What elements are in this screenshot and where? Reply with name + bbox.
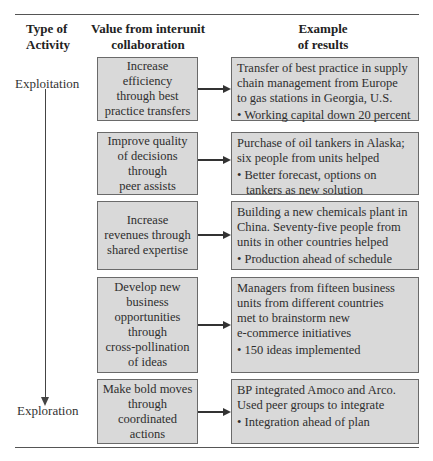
value-line: Increase	[127, 213, 169, 228]
bullet-line: • Production ahead of schedule	[237, 252, 413, 267]
header-value-line-2: collaboration	[86, 37, 210, 53]
header-type-line-2: Activity	[26, 37, 70, 53]
arrow-right-icon	[198, 407, 231, 416]
value-box-revenues: Increase revenues through shared experti…	[97, 201, 198, 270]
result-line: units from different countries	[237, 296, 413, 311]
value-line: through	[128, 397, 167, 412]
value-line: Improve quality	[107, 134, 187, 149]
value-line: efficiency	[123, 74, 173, 89]
value-line: practice transfers	[105, 104, 191, 119]
value-line: actions	[130, 427, 165, 442]
value-line: coordinated	[118, 412, 177, 427]
result-line: units in other countries helped	[237, 235, 413, 250]
header-example-line-1: Example	[263, 21, 383, 37]
result-line: Used peer groups to integrate	[237, 398, 413, 413]
value-line: Increase	[127, 59, 169, 74]
arrow-right-icon	[198, 230, 231, 239]
result-bullet: • Better forecast, options on tankers as…	[237, 168, 413, 198]
header-example-line-2: of results	[263, 37, 383, 53]
value-line: through	[128, 164, 167, 179]
value-line: Develop new	[114, 280, 180, 295]
result-line: BP integrated Amoco and Arco.	[237, 383, 413, 398]
value-box-efficiency: Increase efficiency through best practic…	[97, 57, 198, 121]
bullet-line: • Integration ahead of plan	[237, 415, 413, 430]
result-line: Managers from fifteen business	[237, 281, 413, 296]
activity-axis-line	[45, 89, 46, 399]
value-box-bold-moves: Make bold moves through coordinated acti…	[97, 379, 198, 444]
header-type-of-activity: Type of Activity	[26, 21, 70, 53]
result-box-opportunities: Managers from fifteen business units fro…	[231, 277, 419, 373]
result-box-decisions: Purchase of oil tankers in Alaska; six p…	[231, 132, 419, 195]
header-example: Example of results	[263, 21, 383, 53]
header-type-line-1: Type of	[26, 21, 70, 37]
result-bullet: • Production ahead of schedule	[237, 252, 413, 267]
bullet-line: • 150 ideas implemented	[237, 343, 413, 358]
header-value: Value from interunit collaboration	[86, 21, 210, 53]
result-line: China. Seventy-five people from	[237, 220, 413, 235]
value-line: opportunities	[115, 310, 181, 325]
result-line: met to brainstorm new	[237, 311, 413, 326]
header-value-line-1: Value from interunit	[86, 21, 210, 37]
top-rule	[15, 14, 419, 15]
result-line: Building a new chemicals plant in	[237, 205, 413, 220]
result-line: e-commerce initiatives	[237, 326, 413, 341]
bullet-line: • Working capital down 20 percent	[237, 108, 413, 123]
result-bullet: • Integration ahead of plan	[237, 415, 413, 430]
value-line: of decisions	[117, 149, 177, 164]
value-line: of ideas	[128, 355, 167, 370]
result-line: Transfer of best practice in supply	[237, 61, 413, 76]
bullet-line: tankers as new solution	[237, 183, 413, 198]
value-line: Make bold moves	[103, 382, 193, 397]
result-bullet: • Working capital down 20 percent	[237, 108, 413, 123]
value-line: through	[128, 325, 167, 340]
result-line: to gas stations in Georgia, U.S.	[237, 91, 413, 106]
arrow-right-icon	[198, 320, 231, 329]
value-line: cross-pollination	[105, 340, 189, 355]
value-box-decisions: Improve quality of decisions through pee…	[97, 132, 198, 195]
result-box-bold-moves: BP integrated Amoco and Arco. Used peer …	[231, 379, 419, 444]
result-box-efficiency: Transfer of best practice in supply chai…	[231, 57, 419, 121]
arrow-right-icon	[198, 84, 231, 93]
result-line: chain management from Europe	[237, 76, 413, 91]
exploitation-label: Exploitation	[15, 76, 79, 92]
result-line: Purchase of oil tankers in Alaska;	[237, 136, 413, 151]
value-line: shared expertise	[107, 243, 188, 258]
value-box-opportunities: Develop new business opportunities throu…	[97, 277, 198, 373]
bottom-rule	[15, 447, 419, 448]
value-line: through best	[116, 89, 178, 104]
bullet-line: • Better forecast, options on	[237, 168, 413, 183]
exploration-label: Exploration	[17, 403, 78, 419]
result-box-revenues: Building a new chemicals plant in China.…	[231, 201, 419, 270]
result-line: six people from units helped	[237, 151, 413, 166]
result-bullet: • 150 ideas implemented	[237, 343, 413, 358]
value-line: business	[126, 295, 168, 310]
value-line: peer assists	[119, 179, 176, 194]
arrow-right-icon	[198, 155, 231, 164]
value-line: revenues through	[104, 228, 190, 243]
